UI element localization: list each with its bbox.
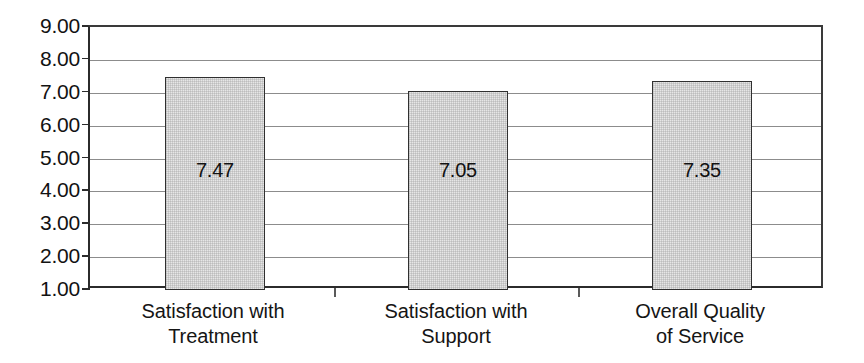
y-axis-tick-label: 7.00 bbox=[18, 81, 80, 102]
y-axis-tick-label: 1.00 bbox=[18, 278, 80, 299]
x-axis-category-label: Overall Qualityof Service bbox=[578, 299, 823, 349]
y-axis-tick-label: 5.00 bbox=[18, 147, 80, 168]
bar-value-label: 7.35 bbox=[652, 160, 752, 180]
x-axis-category-line-2: Support bbox=[334, 324, 579, 349]
gridline bbox=[90, 60, 821, 61]
x-axis-tick-mark bbox=[334, 288, 336, 297]
y-axis-tick-label: 9.00 bbox=[18, 15, 80, 36]
x-axis-category-line-2: of Service bbox=[578, 324, 823, 349]
y-axis-tick-mark bbox=[82, 288, 90, 290]
x-axis-tick-mark bbox=[578, 288, 580, 297]
bar bbox=[165, 77, 265, 290]
bar bbox=[408, 91, 508, 290]
x-axis-category-line-1: Satisfaction with bbox=[142, 300, 285, 322]
y-axis-tick-label: 6.00 bbox=[18, 114, 80, 135]
y-axis-tick-label: 2.00 bbox=[18, 245, 80, 266]
y-axis-tick-label: 8.00 bbox=[18, 48, 80, 69]
bar bbox=[652, 81, 752, 290]
plot-area: 7.477.057.35 bbox=[88, 25, 823, 288]
x-axis-category-label: Satisfaction withTreatment bbox=[91, 299, 336, 349]
x-axis-category-line-2: Treatment bbox=[91, 324, 336, 349]
y-axis-tick-label: 4.00 bbox=[18, 179, 80, 200]
x-axis-category-label: Satisfaction withSupport bbox=[334, 299, 579, 349]
bar-chart: 9.008.007.006.005.004.003.002.001.00 7.4… bbox=[0, 0, 864, 363]
x-axis-category-line-1: Overall Quality bbox=[635, 300, 765, 322]
y-axis-tick-label: 3.00 bbox=[18, 212, 80, 233]
bar-value-label: 7.05 bbox=[408, 160, 508, 180]
bar-value-label: 7.47 bbox=[165, 160, 265, 180]
x-axis-category-line-1: Satisfaction with bbox=[385, 300, 528, 322]
